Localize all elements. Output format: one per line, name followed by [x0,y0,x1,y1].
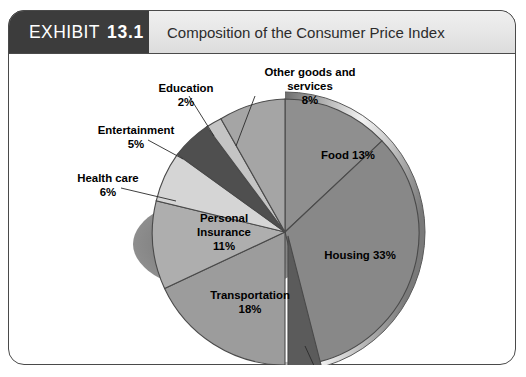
exhibit-badge-number: 13.1 [107,22,144,43]
label-education: Education [158,82,213,94]
exhibit-badge: EXHIBIT 13.1 [9,11,149,53]
label-health-care-percent: 6% [100,186,116,198]
exhibit-title: Composition of the Consumer Price Index [167,24,445,41]
label-health-care: Health care [77,172,138,184]
pie-chart-figure: Other goods and services 8% Education 2%… [8,54,516,365]
exhibit-title-bar: Composition of the Consumer Price Index [149,11,515,53]
pie-slices [152,99,419,365]
label-transportation-percent: 18% [239,303,262,315]
pie-chart-svg: Other goods and services 8% Education 2%… [8,54,516,365]
exhibit-badge-keyword: EXHIBIT [29,22,100,43]
label-entertainment: Entertainment [98,124,175,136]
label-other-goods-line2: services [287,80,333,92]
label-food: Food 13% [321,149,375,161]
label-personal-insurance-percent: 11% [213,240,235,252]
exhibit-header: EXHIBIT 13.1 Composition of the Consumer… [8,10,516,54]
leader-line-entertainment [148,140,183,159]
label-housing: Housing 33% [324,249,396,261]
label-other-goods-line1: Other goods and [264,66,355,78]
label-personal-insurance-line1: Personal [200,212,248,224]
label-entertainment-percent: 5% [128,138,144,150]
label-personal-insurance-line2: Insurance [197,226,251,238]
label-education-percent: 2% [178,96,194,108]
label-transportation: Transportation [210,289,290,301]
label-other-goods-percent: 8% [302,94,318,106]
